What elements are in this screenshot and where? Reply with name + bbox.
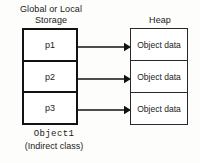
heap-cell-1: Object data — [131, 29, 187, 60]
heap-block: Object data Object data Object data — [130, 28, 188, 125]
diagram-caption: Object1 (Indirect class) — [0, 128, 108, 152]
heap-cell-label: Object data — [137, 72, 180, 82]
storage-cell-label: p3 — [45, 103, 55, 113]
storage-cell-label: p1 — [45, 40, 55, 50]
storage-cell-p3: p3 — [24, 91, 76, 123]
storage-block: p1 p2 p3 — [22, 28, 78, 125]
heap-cell-3: Object data — [131, 92, 187, 124]
pointer-arrow-p2 — [78, 75, 131, 83]
heap-cell-label: Object data — [137, 104, 180, 114]
heap-cell-2: Object data — [131, 60, 187, 92]
storage-cell-label: p2 — [45, 72, 55, 82]
diagram-canvas: Global or Local Storage Heap p1 p2 p3 Ob… — [0, 0, 200, 163]
caption-object-name: Object1 — [0, 128, 108, 140]
storage-cell-p1: p1 — [24, 30, 76, 60]
heap-column-label: Heap — [131, 15, 189, 26]
storage-cell-p2: p2 — [24, 60, 76, 92]
pointer-arrow-p3 — [78, 106, 131, 114]
caption-class-kind: (Indirect class) — [0, 140, 108, 152]
pointer-arrow-p1 — [78, 43, 131, 51]
heap-cell-label: Object data — [137, 40, 180, 50]
storage-column-label: Global or Local Storage — [6, 4, 96, 26]
